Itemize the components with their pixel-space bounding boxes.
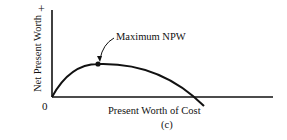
y-axis-plus-tick: +: [38, 2, 45, 17]
annotation-arrow: [100, 38, 114, 59]
maximum-npw-annotation: Maximum NPW: [116, 31, 186, 42]
npw-curve: [52, 64, 204, 106]
origin-label: 0: [42, 100, 48, 112]
y-axis-label: Net Present Worth: [32, 4, 43, 104]
maximum-point: [95, 61, 100, 66]
arrow-head-icon: [97, 56, 102, 62]
x-axis-label: Present Worth of Cost: [108, 105, 201, 116]
figure-caption: (c): [161, 119, 173, 130]
npw-diagram: [0, 0, 287, 140]
